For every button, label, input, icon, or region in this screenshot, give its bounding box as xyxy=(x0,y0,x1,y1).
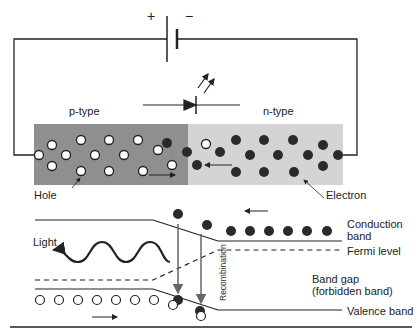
conduction-band-line xyxy=(35,220,342,241)
light-label: Light xyxy=(33,236,57,248)
band-gap-label-2: (forbidden band) xyxy=(312,285,393,297)
band-gap-label: Band gap xyxy=(312,273,359,285)
battery-minus-label: − xyxy=(185,10,193,22)
electron-label: Electron xyxy=(326,189,366,201)
p-type-label: p-type xyxy=(69,105,100,117)
conduction-band-label: Conduction xyxy=(347,218,403,230)
battery-plus-label: + xyxy=(147,10,155,22)
battery-icon xyxy=(167,16,177,62)
conduction-electrons xyxy=(173,209,332,316)
n-type-label: n-type xyxy=(263,105,294,117)
recombination-label: Recombination xyxy=(218,244,228,301)
diode-symbol-icon xyxy=(143,74,240,114)
fermi-level-line xyxy=(35,250,342,280)
light-wave-icon xyxy=(54,242,170,262)
p-type-region xyxy=(34,124,188,185)
fermi-level-label: Fermi level xyxy=(347,245,401,257)
hole-label: Hole xyxy=(34,189,57,201)
conduction-band-label-2: band xyxy=(347,230,371,242)
recombination-arrows xyxy=(178,224,201,303)
valence-band-label: Valence band xyxy=(347,305,413,317)
